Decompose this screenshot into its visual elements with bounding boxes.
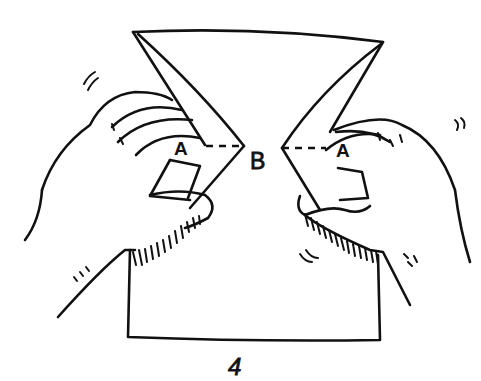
illustration bbox=[0, 0, 481, 381]
left-hand bbox=[25, 92, 212, 317]
point-a-left-label: A bbox=[174, 139, 188, 158]
point-a-right-label: A bbox=[336, 141, 350, 160]
step-number: 4 bbox=[228, 355, 241, 379]
origami-diagram: A B A 4 bbox=[0, 0, 481, 381]
point-b-label: B bbox=[250, 150, 265, 173]
left-hand-shadow-hatch bbox=[133, 216, 200, 265]
paper-sheet bbox=[128, 30, 383, 340]
